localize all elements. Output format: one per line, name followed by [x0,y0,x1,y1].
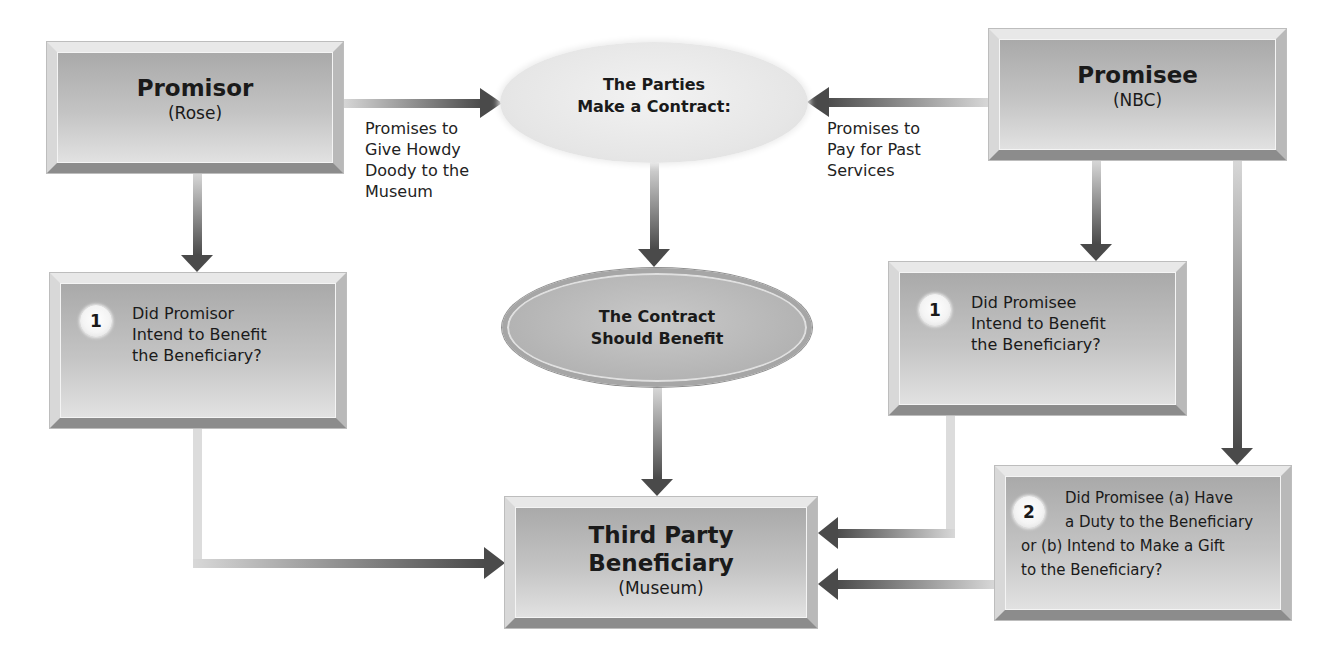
promisee-promise-label: Promises to Pay for Past Services [827,118,921,181]
question-line: Did Promisor [132,303,267,324]
third-party-line1: Third Party [515,521,807,549]
promisee-subtitle: (NBC) [999,89,1276,111]
step-number-badge: 1 [919,294,951,326]
question-line: the Beneficiary? [132,345,267,366]
question-line: Intend to Benefit [971,313,1106,334]
arrow-promisor-to-question [181,173,213,272]
step-number-badge: 1 [80,305,112,337]
label-line: Services [827,160,921,181]
label-line: Promises to [827,118,921,139]
arrow-promisee-to-contract [807,87,989,117]
label-line: Give Howdy [365,139,469,160]
promisee-question1-box: 1 Did Promisee Intend to Benefit the Ben… [889,262,1186,415]
promisor-box: Promisor (Rose) [47,42,343,173]
promisee-title: Promisee [999,61,1276,89]
arrow-promisee-question1-to-third-party [818,415,955,549]
promisor-question-text: Did Promisor Intend to Benefit the Benef… [132,303,267,366]
promisor-subtitle: (Rose) [57,102,333,124]
arrow-promisee-to-question2 [1221,160,1253,465]
question-line: to the Beneficiary? [1021,558,1253,582]
label-line: Pay for Past [827,139,921,160]
third-party-subtitle: (Museum) [515,577,807,599]
label-line: Doody to the [365,160,469,181]
question-line: Did Promisee [971,292,1106,313]
question-line: Did Promisee (a) Have [1021,486,1253,510]
question-line: or (b) Intend to Make a Gift [1021,534,1253,558]
arrow-benefit-to-third-party [641,387,673,496]
arrow-promisee-question2-to-third-party [818,568,995,600]
contract-ellipse-line1: The Parties [577,74,731,96]
promisee-question2-box: 2 Did Promisee (a) Have a Duty to the Be… [995,466,1291,620]
benefit-ellipse-line1: The Contract [591,306,724,328]
promisee-question2-text: Did Promisee (a) Have a Duty to the Bene… [1021,486,1253,582]
arrow-promisor-to-contract [342,88,502,118]
third-party-line2: Beneficiary [515,549,807,577]
third-party-beneficiary-box: Third Party Beneficiary (Museum) [505,497,817,628]
question-line: Intend to Benefit [132,324,267,345]
question-line: a Duty to the Beneficiary [1021,510,1253,534]
arrow-promisor-question-to-third-party [193,428,505,579]
promisor-title: Promisor [57,74,333,102]
arrow-promisee-to-question1 [1080,160,1112,261]
promisee-box: Promisee (NBC) [989,29,1286,160]
label-line: Museum [365,181,469,202]
promisor-question-box: 1 Did Promisor Intend to Benefit the Ben… [50,273,346,428]
promisor-promise-label: Promises to Give Howdy Doody to the Muse… [365,118,469,202]
benefit-ellipse: The Contract Should Benefit [502,268,812,387]
promisee-question1-text: Did Promisee Intend to Benefit the Benef… [971,292,1106,355]
contract-ellipse-line2: Make a Contract: [577,96,731,118]
label-line: Promises to [365,118,469,139]
arrow-contract-to-benefit [638,163,670,267]
contract-ellipse: The Parties Make a Contract: [500,42,808,163]
question-line: the Beneficiary? [971,334,1106,355]
benefit-ellipse-line2: Should Benefit [591,328,724,350]
